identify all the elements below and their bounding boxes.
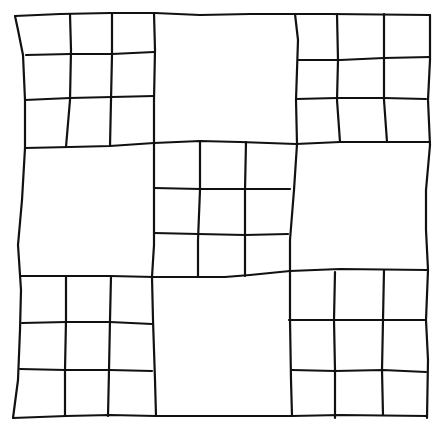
- grid-line-outer-right: [426, 15, 430, 418]
- grid-line-tr-v1: [337, 14, 340, 142]
- grid-line-tl-v2: [110, 13, 112, 146]
- grid-line-tr-h1: [298, 57, 430, 60]
- grid-line-bl-v1: [65, 276, 66, 416]
- grid-line-tr-v2: [384, 14, 387, 142]
- quilt-grid-drawing: Hand-drawn nine-patch quilt-style grid: …: [0, 0, 443, 424]
- grid-svg: [0, 0, 443, 424]
- grid-line-v-col1: [152, 13, 156, 416]
- grid-line-bl-h2: [20, 369, 152, 371]
- grid-line-v-col2: [290, 14, 298, 416]
- grid-line-outer-top: [15, 13, 430, 16]
- grid-line-h-row2: [21, 269, 427, 277]
- grid-line-outer-left: [13, 16, 25, 418]
- grid-line-c-v2: [245, 142, 246, 276]
- grid-line-bl-v2: [108, 276, 111, 416]
- grid-line-bl-h1: [22, 322, 152, 324]
- grid-line-br-v2: [382, 270, 384, 415]
- grid-line-c-h1: [154, 188, 290, 189]
- grid-line-c-h2: [154, 233, 288, 235]
- grid-line-h-row1: [25, 141, 430, 148]
- grid-line-c-v1: [198, 141, 200, 277]
- grid-line-tl-v1: [66, 14, 71, 147]
- grid-line-br-h2: [292, 370, 426, 372]
- grid-line-tr-h2: [296, 98, 426, 99]
- grid-line-outer-bottom: [13, 415, 427, 418]
- grid-line-br-v1: [334, 272, 335, 418]
- grid-line-tl-h2: [25, 96, 154, 100]
- grid-line-tl-h1: [26, 52, 154, 55]
